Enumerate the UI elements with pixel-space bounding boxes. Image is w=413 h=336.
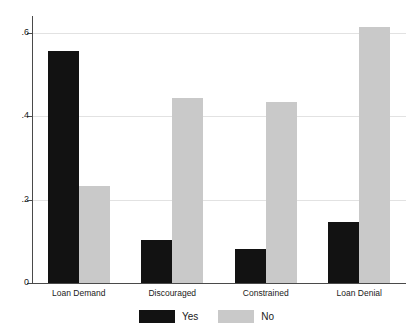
bar-constrained-yes [235,249,266,283]
y-tick-label: .6 [21,27,29,38]
bar-chart-figure: 0.2.4.6 Loan DemandDiscouragedConstraine… [0,0,413,336]
bar-loan-denial-yes [328,222,359,283]
x-axis-label-loan-demand: Loan Demand [32,288,126,299]
x-axis-label-discouraged: Discouraged [126,288,220,299]
bar-constrained-no [266,102,297,283]
y-axis-line [32,16,33,284]
gridline [32,33,406,34]
bar-loan-denial-no [359,27,390,283]
y-tick-label: 0 [24,277,29,288]
y-tick-label: .4 [21,110,29,121]
legend-entry-no: No [218,310,274,323]
bar-discouraged-no [172,98,203,283]
chart-legend: YesNo [0,310,413,323]
gridline [32,116,406,117]
x-axis-line [32,283,406,284]
x-axis-label-constrained: Constrained [219,288,313,299]
legend-swatch-no [218,310,254,323]
x-axis-label-loan-denial: Loan Denial [313,288,407,299]
legend-swatch-yes [139,310,175,323]
y-tick-label: .2 [21,194,29,205]
legend-label: No [261,311,274,323]
legend-label: Yes [182,311,198,323]
plot-area [32,16,406,283]
bar-discouraged-yes [141,240,172,283]
bar-loan-demand-no [79,186,110,283]
bar-loan-demand-yes [48,51,79,284]
legend-entry-yes: Yes [139,310,198,323]
